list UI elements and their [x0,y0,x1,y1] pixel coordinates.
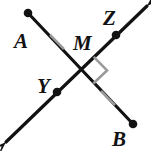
point-y-dot [53,88,62,97]
point-a-dot [24,9,33,18]
point-b-dot [129,120,138,129]
point-m-label: M [72,31,93,55]
point-a-label: A [12,29,28,53]
point-z-dot [112,31,121,40]
point-b-label: B [111,127,126,151]
geometry-canvas: A B M Y Z [0,0,151,151]
point-z-label: Z [102,6,116,30]
point-y-label: Y [37,74,52,98]
geometry-figure: A B M Y Z [0,0,151,151]
